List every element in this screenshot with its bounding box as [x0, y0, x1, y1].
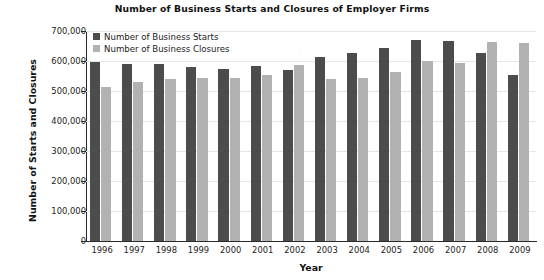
- x-tick-label: 2002: [279, 245, 311, 255]
- y-tick-label: 500,000: [12, 86, 86, 96]
- x-tick-label: 2001: [247, 245, 279, 255]
- bar-group: [283, 31, 304, 241]
- x-tick-label: 2008: [472, 245, 504, 255]
- chart-title: Number of Business Starts and Closures o…: [0, 3, 544, 14]
- y-tick-mark: [81, 91, 86, 92]
- y-tick-mark: [81, 31, 86, 32]
- y-tick-label: 700,000: [12, 26, 86, 36]
- bar-closures: [390, 72, 400, 242]
- bar-closures: [165, 79, 175, 241]
- y-tick-label: 0: [12, 236, 86, 246]
- bar-closures: [519, 43, 529, 241]
- bar-group: [218, 31, 239, 241]
- x-tick-label: 2007: [440, 245, 472, 255]
- x-tick-label: 1998: [150, 245, 182, 255]
- x-tick-label: 2006: [407, 245, 439, 255]
- bar-starts: [443, 41, 453, 241]
- chart-legend: Number of Business StartsNumber of Busin…: [93, 31, 230, 55]
- x-tick-label: 2004: [343, 245, 375, 255]
- bar-starts: [476, 53, 486, 241]
- legend-swatch-icon: [93, 33, 100, 40]
- bar-chart: Number of Business Starts and Closures o…: [0, 0, 544, 280]
- bar-starts: [508, 75, 518, 241]
- bar-closures: [294, 65, 304, 241]
- bar-starts: [411, 40, 421, 241]
- bar-group: [443, 31, 464, 241]
- bar-closures: [101, 87, 111, 241]
- legend-swatch-icon: [93, 45, 100, 52]
- bar-group: [90, 31, 111, 241]
- bar-group: [122, 31, 143, 241]
- bar-group: [347, 31, 368, 241]
- bar-starts: [186, 67, 196, 241]
- bar-closures: [358, 78, 368, 241]
- bar-closures: [487, 42, 497, 241]
- y-tick-mark: [81, 181, 86, 182]
- bar-group: [411, 31, 432, 241]
- bar-group: [251, 31, 272, 241]
- bar-closures: [422, 61, 432, 241]
- y-tick-label: 300,000: [12, 146, 86, 156]
- x-tick-label: 2003: [311, 245, 343, 255]
- y-tick-label: 600,000: [12, 56, 86, 66]
- bar-closures: [326, 79, 336, 241]
- x-tick-label: 2009: [504, 245, 536, 255]
- y-tick-label: 100,000: [12, 206, 86, 216]
- bar-group: [154, 31, 175, 241]
- legend-label: Number of Business Starts: [104, 32, 218, 42]
- bar-starts: [154, 64, 164, 241]
- plot-area: [86, 31, 536, 241]
- y-axis-title: Number of Starts and Closures: [27, 51, 38, 231]
- y-tick-mark: [81, 121, 86, 122]
- y-tick-label: 400,000: [12, 116, 86, 126]
- legend-item: Number of Business Starts: [93, 31, 230, 42]
- bar-closures: [455, 63, 465, 241]
- bar-group: [379, 31, 400, 241]
- bar-starts: [122, 64, 132, 241]
- x-tick-label: 1999: [182, 245, 214, 255]
- x-tick-label: 2005: [375, 245, 407, 255]
- bar-starts: [218, 69, 228, 241]
- bar-starts: [379, 48, 389, 241]
- y-tick-mark: [81, 211, 86, 212]
- bar-starts: [251, 66, 261, 242]
- bar-starts: [315, 57, 325, 241]
- y-tick-mark: [81, 61, 86, 62]
- bar-group: [508, 31, 529, 241]
- bar-group: [186, 31, 207, 241]
- bar-group: [476, 31, 497, 241]
- bar-starts: [347, 53, 357, 241]
- bar-starts: [283, 70, 293, 241]
- legend-label: Number of Business Closures: [104, 44, 230, 54]
- legend-item: Number of Business Closures: [93, 43, 230, 54]
- bar-closures: [262, 75, 272, 241]
- bar-closures: [197, 78, 207, 241]
- y-tick-label: 200,000: [12, 176, 86, 186]
- y-tick-mark: [81, 151, 86, 152]
- bar-closures: [133, 82, 143, 241]
- x-tick-label: 1996: [86, 245, 118, 255]
- y-tick-mark: [81, 241, 86, 242]
- x-tick-label: 2000: [215, 245, 247, 255]
- x-tick-label: 1997: [118, 245, 150, 255]
- bar-closures: [230, 78, 240, 241]
- bar-starts: [90, 62, 100, 241]
- bar-group: [315, 31, 336, 241]
- x-axis-title: Year: [86, 262, 536, 273]
- x-axis-line: [86, 241, 537, 242]
